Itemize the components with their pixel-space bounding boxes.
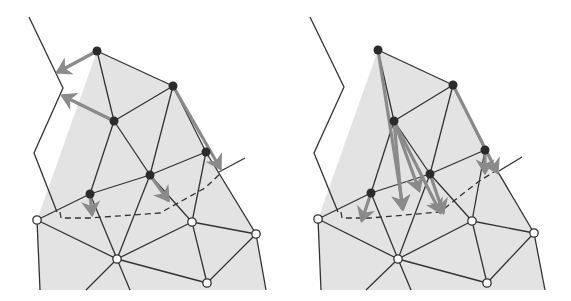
- free-vertex: [169, 82, 178, 91]
- fixed-vertex: [188, 218, 196, 226]
- free-vertex: [110, 117, 119, 126]
- free-vertex: [202, 148, 211, 157]
- mesh-edge: [499, 157, 522, 171]
- fixed-vertex: [203, 279, 211, 287]
- fixed-vertex: [483, 279, 491, 287]
- free-vertex: [146, 171, 155, 180]
- fixed-vertex: [113, 255, 121, 263]
- left-mesh-panel: [29, 17, 266, 290]
- right-mesh-panel: [310, 17, 545, 290]
- fixed-vertex: [252, 230, 260, 238]
- fixed-vertex: [33, 216, 41, 224]
- fixed-vertex: [530, 229, 538, 237]
- mesh-edge: [219, 158, 245, 172]
- free-vertex: [86, 190, 95, 199]
- free-vertex: [426, 170, 435, 179]
- free-vertex: [367, 189, 376, 198]
- fixed-vertex: [468, 217, 476, 225]
- free-vertex: [374, 46, 383, 55]
- free-vertex: [481, 146, 490, 155]
- mesh-deformation-diagram: [0, 0, 571, 301]
- fixed-vertex: [394, 255, 402, 263]
- free-vertex: [449, 81, 458, 90]
- free-vertex: [93, 47, 102, 56]
- fixed-vertex: [314, 215, 322, 223]
- free-vertex: [390, 117, 399, 126]
